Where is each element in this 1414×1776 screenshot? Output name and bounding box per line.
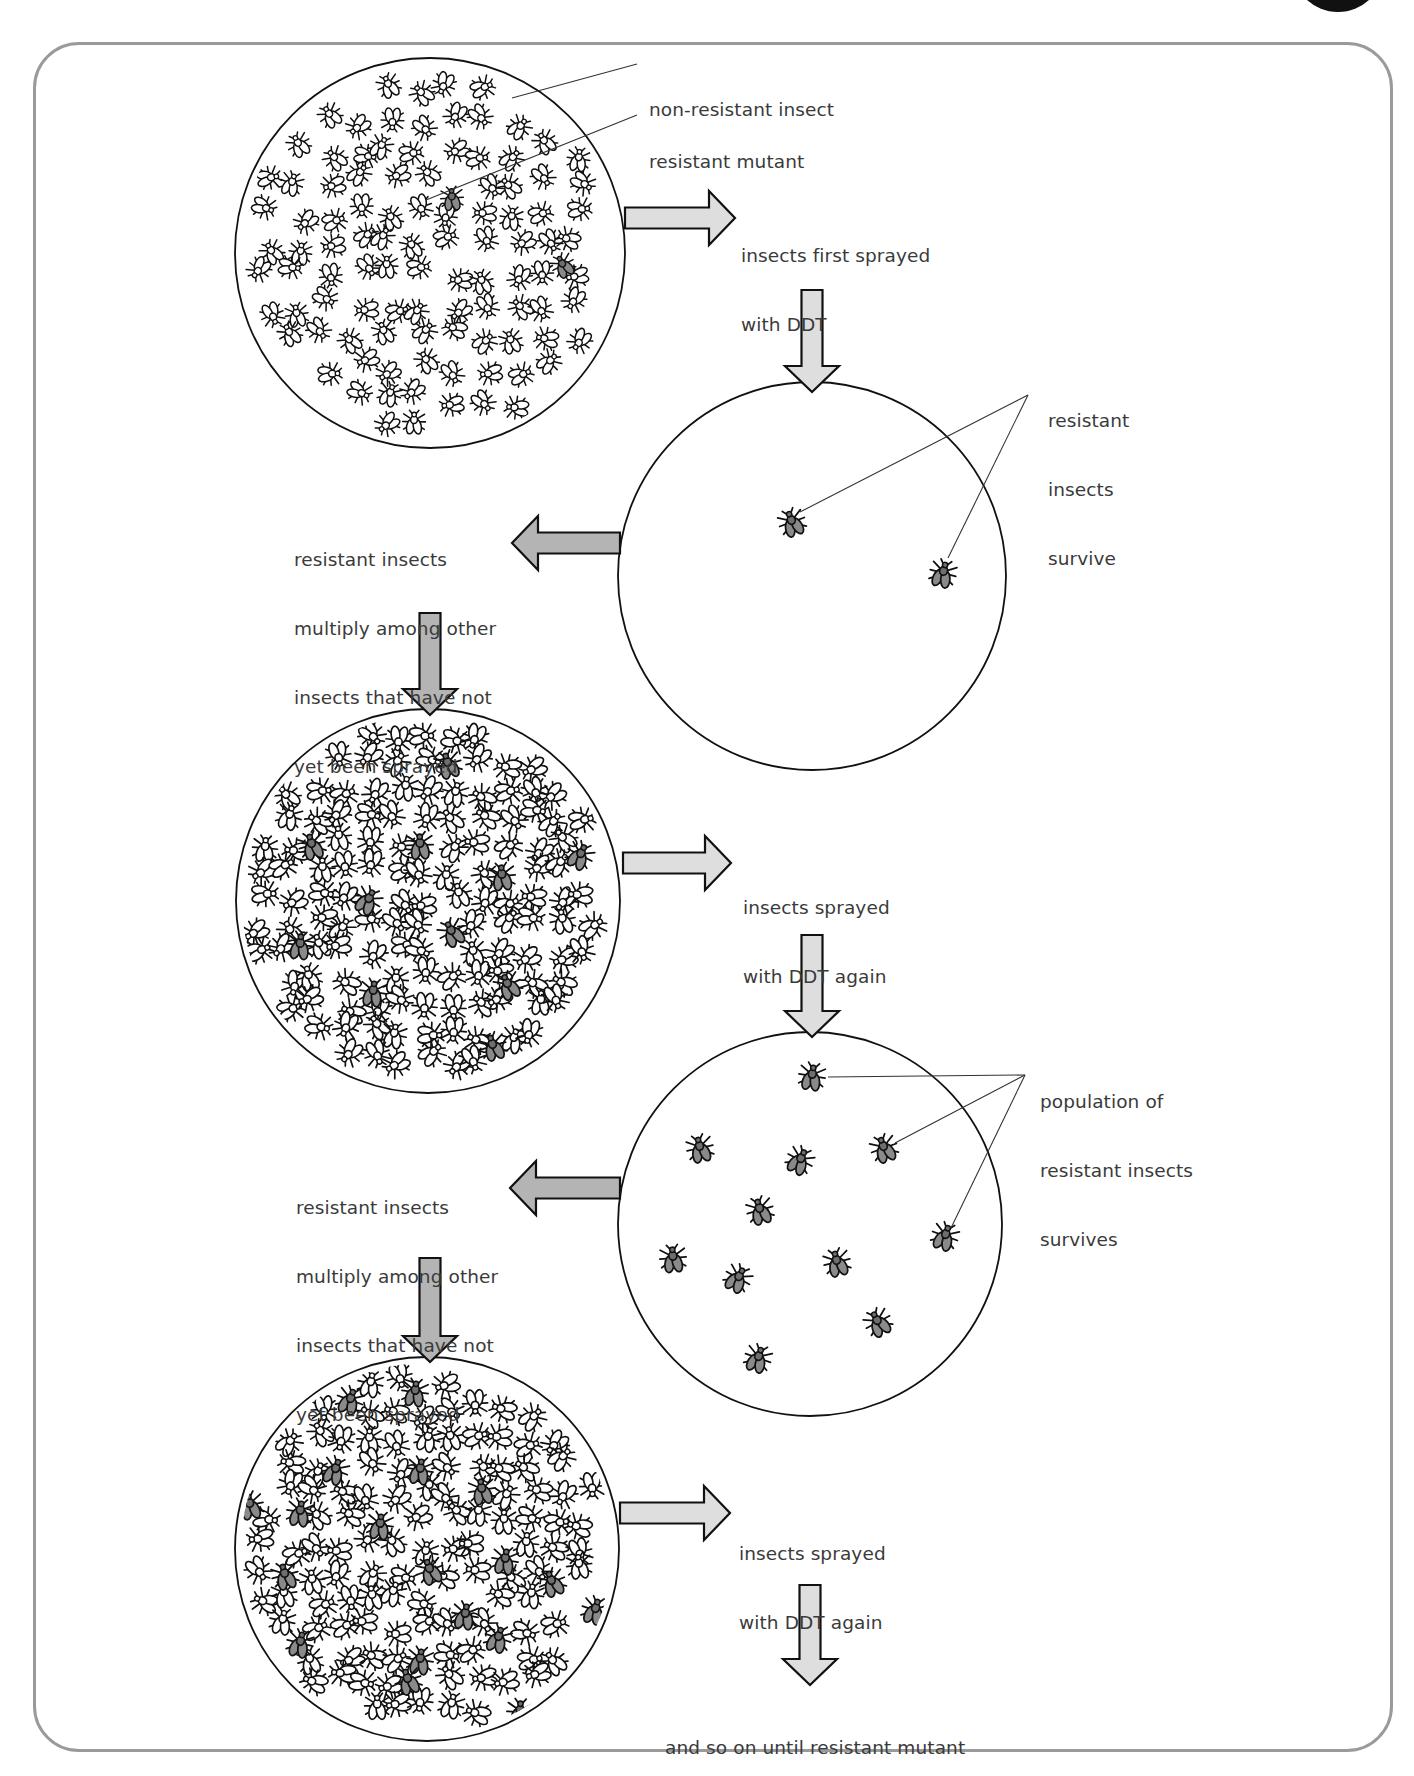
label-spray-again-1: insects sprayed with DDT again (743, 850, 890, 1034)
label-text: resistant mutant (649, 150, 804, 173)
label-resistant-survive: resistant insects survive (1048, 363, 1129, 616)
label-line: resistant insects (296, 1196, 498, 1219)
label-line: multiply among other (296, 1265, 498, 1288)
arrow-multiply-1-icon (512, 516, 620, 570)
label-population-survives: population of resistant insects survives (1040, 1044, 1193, 1297)
label-line: insects (1048, 478, 1129, 501)
label-multiply-2: resistant insects multiply among other i… (296, 1150, 498, 1472)
label-line: survives (1040, 1228, 1193, 1251)
label-line: multiply among other (294, 617, 496, 640)
leader-line (512, 64, 637, 98)
label-line: with DDT again (743, 965, 890, 988)
label-line: resistant (1048, 409, 1129, 432)
label-line: insects sprayed (739, 1542, 886, 1565)
label-line: insects sprayed (743, 896, 890, 919)
label-line: with DDT (741, 313, 930, 336)
label-line: resistant insects (294, 548, 496, 571)
arrow-multiply-2-icon (510, 1161, 620, 1215)
label-final: and so on until resistant mutant replace… (665, 1690, 965, 1776)
label-line: insects that have not (296, 1334, 498, 1357)
label-line: yet been sprayed (296, 1403, 498, 1426)
label-multiply-1: resistant insects multiply among other i… (294, 502, 496, 824)
label-line: and so on until resistant mutant (665, 1736, 965, 1759)
label-line: survive (1048, 547, 1129, 570)
label-line: insects first sprayed (741, 244, 930, 267)
arrow-spray-again-1-icon (623, 836, 731, 890)
label-line: with DDT again (739, 1611, 886, 1634)
label-line: resistant insects (1040, 1159, 1193, 1182)
label-line: insects that have not (294, 686, 496, 709)
diagram-stage: non-resistant insect resistant mutant in… (0, 0, 1414, 1776)
arrow-spray-again-2-icon (620, 1486, 730, 1540)
label-line: population of (1040, 1090, 1193, 1113)
circle-survivors-2 (618, 1032, 1002, 1416)
label-spray-again-2: insects sprayed with DDT again (739, 1496, 886, 1680)
circle-population-initial (235, 58, 625, 448)
label-line: yet been sprayed (294, 755, 496, 778)
circle-survivors-1 (618, 382, 1006, 770)
diagram-artwork (0, 0, 1414, 1776)
label-first-spray: insects first sprayed with DDT (741, 198, 930, 382)
